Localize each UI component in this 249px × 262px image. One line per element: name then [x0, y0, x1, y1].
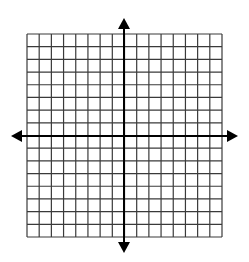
arrow-right-icon — [227, 130, 238, 142]
arrow-up-icon — [118, 18, 130, 29]
arrow-down-icon — [118, 242, 130, 253]
coordinate-plane — [0, 0, 249, 262]
axes — [11, 18, 238, 253]
arrow-left-icon — [11, 130, 22, 142]
